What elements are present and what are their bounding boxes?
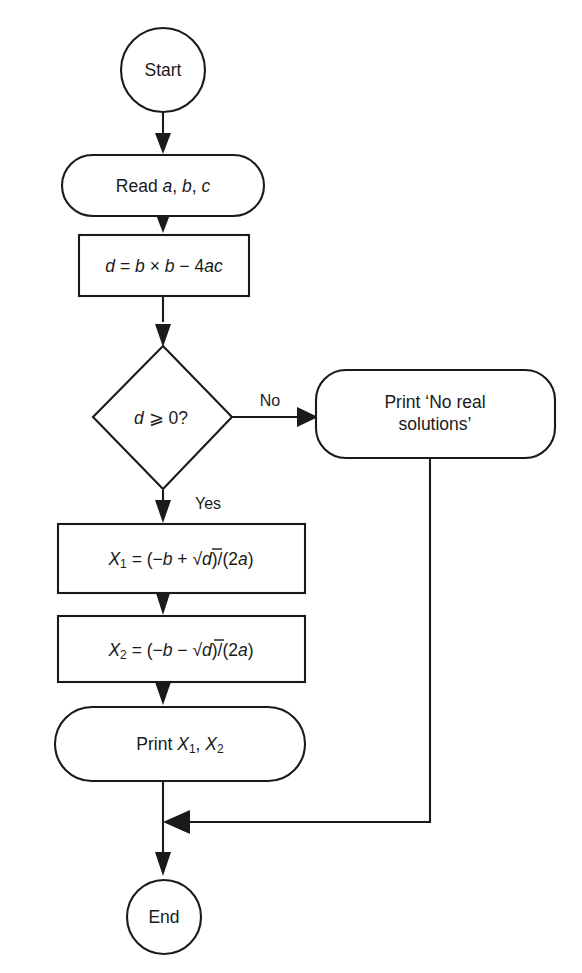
discriminant-eq: =	[115, 256, 135, 276]
discriminant-times: ×	[145, 256, 165, 276]
no-real-label-line-1: Print ‘No real	[384, 392, 485, 412]
arrowhead-no-return-merge	[163, 810, 190, 834]
discriminant-var-b1: b	[135, 256, 145, 276]
x1-var-a: a	[238, 549, 248, 569]
x2-var-b: b	[163, 640, 173, 660]
node-compute-x1[interactable]: X1 = (−b + √d)/(2a)	[58, 524, 305, 593]
node-print-no-real-solutions[interactable]: Print ‘No real solutions’	[316, 370, 555, 458]
read-var-a: a	[163, 176, 173, 196]
read-label-static: Read	[116, 176, 163, 196]
decision-label: d ⩾ 0?	[134, 408, 188, 428]
arrowhead-discriminant-to-decision	[155, 324, 171, 347]
edge-label-yes: Yes	[195, 495, 221, 512]
x2-op: −	[173, 640, 193, 660]
x2-close: )	[248, 640, 254, 660]
x1-var-b: b	[163, 549, 173, 569]
node-start[interactable]: Start	[121, 28, 205, 112]
start-label: Start	[145, 60, 182, 80]
node-discriminant[interactable]: d = b × b − 4ac	[79, 235, 249, 296]
x2-radical: √	[192, 640, 202, 660]
end-label: End	[148, 907, 179, 927]
x1-label: X1 = (−b + √d)/(2a)	[107, 549, 253, 572]
print-roots-static: Print	[136, 734, 177, 754]
discriminant-label: d = b × b − 4ac	[105, 256, 223, 276]
node-compute-x2[interactable]: X2 = (−b − √d)/(2a)	[58, 616, 305, 682]
x2-tail: )/(2	[212, 640, 238, 660]
read-comma-2: ,	[192, 176, 202, 196]
edge-label-no: No	[260, 392, 281, 409]
read-var-c: c	[201, 176, 210, 196]
decision-operator: ⩾	[144, 408, 169, 428]
discriminant-minus: −	[174, 256, 194, 276]
x1-eq: = (−	[127, 549, 163, 569]
arrowhead-print-to-end	[155, 852, 171, 876]
read-comma-1: ,	[172, 176, 182, 196]
node-read-inputs[interactable]: Read a, b, c	[62, 155, 264, 216]
discriminant-var-ac: ac	[204, 256, 223, 276]
x1-tail: )/(2	[212, 549, 238, 569]
node-end[interactable]: End	[127, 880, 201, 954]
discriminant-num-4: 4	[194, 256, 204, 276]
x1-op: +	[173, 549, 193, 569]
read-var-b: b	[182, 176, 192, 196]
print-roots-label: Print X1, X2	[136, 734, 224, 757]
node-print-roots[interactable]: Print X1, X2	[55, 707, 305, 781]
print-roots-comma: ,	[196, 734, 206, 754]
no-real-label-line-2: solutions’	[399, 414, 472, 434]
node-decision[interactable]: d ⩾ 0?	[93, 346, 232, 489]
arrowhead-start-to-read	[155, 133, 171, 154]
flowchart-svg: Start Read a, b, c d = b × b − 4ac d ⩾ 0…	[0, 0, 582, 973]
arrowhead-decision-to-no	[297, 407, 318, 427]
discriminant-var-b2: b	[165, 256, 175, 276]
print-roots-sub-2: 2	[217, 742, 224, 756]
x1-close: )	[248, 549, 254, 569]
x2-var-a: a	[238, 640, 248, 660]
x1-radical: √	[192, 549, 202, 569]
x2-label: X2 = (−b − √d)/(2a)	[107, 640, 253, 663]
read-label: Read a, b, c	[116, 176, 211, 196]
arrowhead-decision-to-x1	[155, 500, 171, 523]
flowchart-container: Start Read a, b, c d = b × b − 4ac d ⩾ 0…	[0, 0, 582, 973]
decision-value: 0?	[169, 408, 189, 428]
x2-eq: = (−	[127, 640, 163, 660]
arrowhead-x2-to-print	[155, 682, 171, 705]
